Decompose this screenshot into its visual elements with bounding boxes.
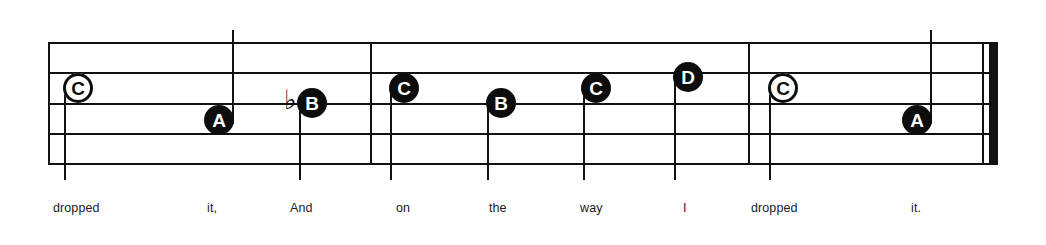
staff-line-5 — [48, 163, 990, 165]
staff-line-3 — [48, 103, 990, 105]
barline-2 — [748, 42, 750, 165]
lyric-syllable-8: dropped — [751, 202, 798, 215]
flat-accidental-note-3: ♭ — [284, 86, 297, 113]
notehead-note-7-d[interactable]: D — [673, 62, 703, 92]
lyric-syllable-5: the — [489, 202, 507, 215]
notehead-note-5-b[interactable]: B — [486, 88, 516, 118]
staff-line-2 — [48, 72, 990, 74]
lyric-syllable-4: on — [396, 202, 410, 215]
notehead-note-4-c[interactable]: C — [389, 73, 419, 103]
barline-final-thin — [982, 42, 984, 165]
stem-note-8 — [769, 88, 771, 180]
notehead-note-8-c[interactable]: C — [768, 73, 798, 103]
staff-line-1 — [48, 42, 990, 44]
notehead-note-2-a[interactable]: A — [204, 105, 234, 135]
notehead-note-9-a[interactable]: A — [902, 105, 932, 135]
lyric-syllable-9: it. — [911, 202, 921, 215]
staff-line-4 — [48, 133, 990, 135]
music-staff-sheet: ♭ CABCBCDCA droppedit,AndonthewayIdroppe… — [0, 0, 1046, 245]
barline-start — [48, 42, 50, 165]
stem-note-1 — [64, 88, 66, 180]
barline-1 — [370, 42, 372, 165]
lyric-syllable-7: I — [683, 202, 687, 215]
stem-note-5 — [487, 103, 489, 180]
stem-note-6 — [583, 88, 585, 180]
lyric-syllable-1: dropped — [53, 202, 100, 215]
stem-note-9 — [930, 30, 932, 124]
lyric-syllable-6: way — [580, 202, 603, 215]
barline-final-thick — [989, 42, 998, 165]
lyric-syllable-3: And — [290, 202, 313, 215]
stem-note-2 — [232, 30, 234, 124]
stem-note-3 — [299, 103, 301, 180]
notehead-note-1-c[interactable]: C — [63, 73, 93, 103]
notehead-note-3-b[interactable]: B — [297, 88, 327, 118]
stem-note-7 — [674, 77, 676, 180]
lyric-syllable-2: it, — [207, 202, 217, 215]
notehead-note-6-c[interactable]: C — [581, 73, 611, 103]
stem-note-4 — [390, 88, 392, 180]
